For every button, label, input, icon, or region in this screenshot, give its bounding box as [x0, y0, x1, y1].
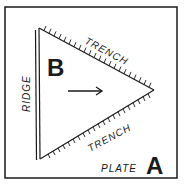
plate-a-word: PLATE: [101, 163, 137, 174]
plate-a-letter: A: [146, 152, 163, 179]
ridge-label: RIDGE: [21, 75, 32, 112]
plate-diagram: TRENCH TRENCH RIDGE B PLATE A: [0, 0, 185, 184]
plate-b-label: B: [47, 54, 64, 81]
motion-arrow-icon: [68, 87, 102, 95]
trench-top-label: TRENCH: [83, 35, 130, 67]
ridge-line: [36, 28, 41, 160]
